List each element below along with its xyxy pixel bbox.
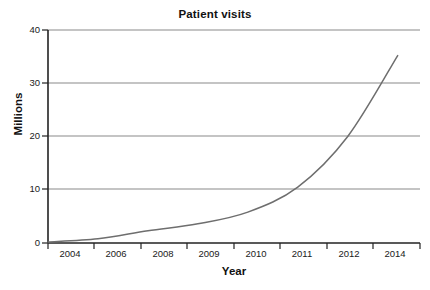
plot-area — [0, 0, 430, 290]
chart-container: Patient visits Millions Year 40 30 20 10… — [0, 0, 430, 290]
gridlines — [48, 30, 420, 189]
x-tick-marks — [48, 243, 420, 249]
y-tick-marks — [42, 30, 48, 243]
